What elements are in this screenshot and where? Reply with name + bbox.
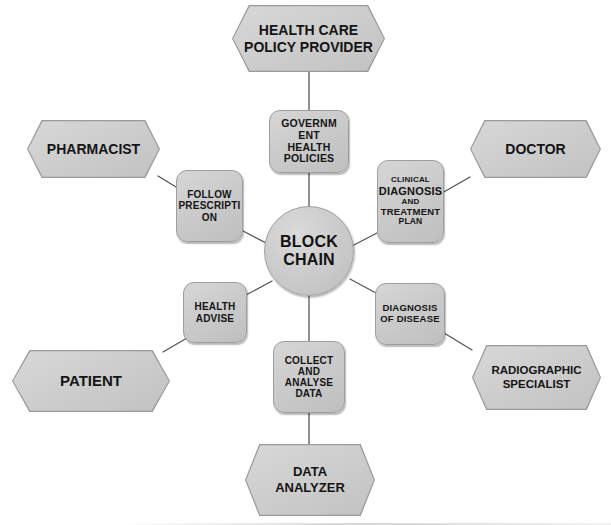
- process-clinical-diagnosis-and-treatment-plan[interactable]: CLINICAL DIAGNOSIS AND TREATMENT PLAN: [377, 160, 444, 243]
- actor-doctor[interactable]: DOCTOR: [470, 120, 601, 178]
- center-label-line2: CHAIN: [280, 251, 338, 269]
- process-diagnosis-of-disease[interactable]: DIAGNOSIS OF DISEASE: [375, 283, 445, 345]
- actor-label: PATIENT: [12, 350, 170, 412]
- center-node-blockchain[interactable]: BLOCK CHAIN: [264, 206, 354, 296]
- process-government-health-policies[interactable]: GOVERNM ENT HEALTH POLICIES: [269, 110, 349, 173]
- process-line-1: CLINICAL: [379, 176, 443, 185]
- connector-doctor-clinicaldiagnosis: [442, 177, 470, 193]
- actor-label-line1: PATIENT: [60, 372, 122, 390]
- actor-label-line1: RADIOGRAPHIC: [491, 364, 581, 378]
- process-line-2: ENT: [281, 130, 337, 142]
- actor-label-line2: POLICY PROVIDER: [244, 39, 373, 56]
- process-line-1: FOLLOW: [179, 189, 241, 200]
- process-follow-prescription[interactable]: FOLLOW PRESCRIPTI ON: [176, 170, 243, 242]
- actor-health-care-policy-provider[interactable]: HEALTH CARE POLICY PROVIDER: [232, 5, 385, 72]
- diagram-canvas: HEALTH CARE POLICY PROVIDER PHARMACIST D…: [0, 0, 611, 525]
- actor-data-analyzer[interactable]: DATA ANALYZER: [245, 444, 375, 516]
- center-label-line1: BLOCK: [280, 233, 338, 251]
- actor-label-line1: DOCTOR: [505, 141, 565, 158]
- process-health-advise[interactable]: HEALTH ADVISE: [183, 282, 247, 343]
- process-line-2: AND: [285, 366, 334, 377]
- process-line-1: HEALTH: [194, 301, 235, 312]
- process-line-4: DATA: [285, 388, 334, 399]
- connector-healthadvise-blockchain: [246, 281, 272, 295]
- process-line-4: POLICIES: [281, 153, 337, 165]
- actor-label-line2: ANALYZER: [275, 480, 345, 496]
- process-line-2: ADVISE: [194, 313, 235, 324]
- process-line-2: DIAGNOSIS: [379, 185, 443, 197]
- process-line-2: PRESCRIPTI: [179, 200, 241, 211]
- process-line-1: COLLECT: [285, 355, 334, 366]
- actor-label-line1: DATA: [275, 464, 345, 480]
- process-line-3: ON: [179, 212, 241, 223]
- process-line-1: GOVERNM: [281, 118, 337, 130]
- actor-label: DOCTOR: [470, 120, 601, 178]
- actor-label: RADIOGRAPHIC SPECIALIST: [472, 345, 601, 410]
- actor-label-line1: PHARMACIST: [47, 141, 140, 158]
- actor-label-line2: SPECIALIST: [491, 378, 581, 392]
- process-collect-and-analyse-data[interactable]: COLLECT AND ANALYSE DATA: [273, 341, 345, 413]
- connector-diagnosisdisease-blockchain: [350, 279, 376, 293]
- process-line-2: OF DISEASE: [380, 314, 440, 325]
- connector-radiographic-diagnosisdisease: [444, 333, 472, 350]
- connector-clinicaldiagnosis-blockchain: [350, 233, 377, 247]
- actor-label: PHARMACIST: [27, 120, 160, 178]
- actor-label: DATA ANALYZER: [245, 444, 375, 516]
- actor-label-line1: HEALTH CARE: [244, 22, 373, 39]
- actor-pharmacist[interactable]: PHARMACIST: [27, 120, 160, 178]
- actor-label: HEALTH CARE POLICY PROVIDER: [232, 5, 385, 72]
- actor-radiographic-specialist[interactable]: RADIOGRAPHIC SPECIALIST: [472, 345, 601, 410]
- process-line-3: ANALYSE: [285, 377, 334, 388]
- process-line-5: PLAN: [379, 217, 443, 227]
- actor-patient[interactable]: PATIENT: [12, 350, 170, 412]
